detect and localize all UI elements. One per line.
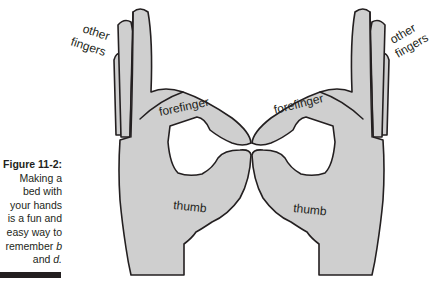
right-hand-icon	[252, 9, 389, 275]
left-hand-icon: forefinger thumb	[114, 9, 251, 275]
hands-illustration: forefinger thumb other fingers forefinge…	[0, 0, 436, 283]
